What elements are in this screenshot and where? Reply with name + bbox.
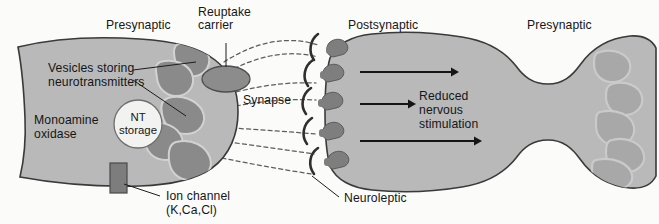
- reuptake-carrier: [202, 66, 250, 92]
- reuptake-carrier-label-line1: Reuptake: [198, 5, 251, 19]
- vesicles-label-line1: Vesicles storing: [48, 61, 134, 75]
- presynaptic-left-label: Presynaptic: [106, 18, 171, 32]
- receptor: [320, 64, 344, 82]
- monoamine-oxidase-label-line2: oxidase: [34, 127, 77, 141]
- neuroleptic-blocker: [303, 88, 311, 114]
- figure-canvas: NT storage: [0, 0, 659, 224]
- vesicles-label-line2: neurotransmitters: [48, 75, 145, 89]
- neuroleptic-blocker: [304, 118, 312, 144]
- synapse-label: Synapse: [243, 93, 291, 107]
- ion-channel-label-line2: (K,Ca,Cl): [166, 203, 217, 217]
- neuroleptic-blocker: [305, 60, 313, 86]
- reuptake-carrier-label-line2: carrier: [198, 18, 233, 32]
- receptor: [318, 92, 343, 110]
- receptor: [319, 122, 344, 140]
- postsynaptic-neuron: [303, 32, 656, 191]
- nt-storage-label-line1: NT: [130, 111, 145, 123]
- ion-channel: [110, 163, 127, 193]
- reduced-stimulation-label-line3: stimulation: [419, 117, 478, 131]
- ion-channel-label-line1: Ion channel: [166, 189, 230, 203]
- postsynaptic-label: Postsynaptic: [348, 18, 418, 32]
- synapse-diagram: NT storage: [0, 0, 659, 224]
- neuroleptic-blocker: [310, 148, 318, 174]
- reduced-stimulation-label-line1: Reduced: [419, 89, 469, 103]
- vesicle: [594, 51, 630, 82]
- presynaptic-right-label: Presynaptic: [527, 18, 592, 32]
- monoamine-oxidase-label-line1: Monoamine: [34, 113, 99, 127]
- nt-storage-label-line2: storage: [119, 124, 157, 136]
- reduced-stimulation-label-line2: nervous: [419, 103, 463, 117]
- neuroleptic-label: Neuroleptic: [344, 191, 407, 205]
